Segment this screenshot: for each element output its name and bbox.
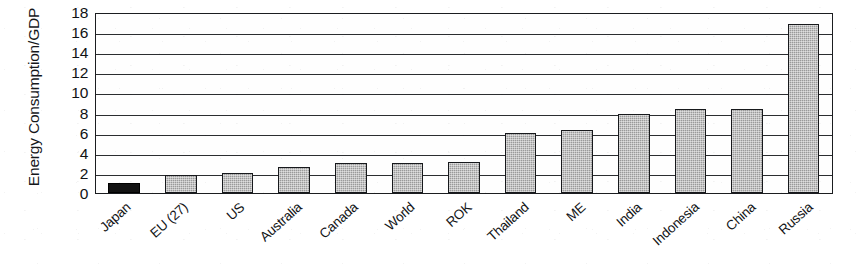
x-axis-tick-label: ROK xyxy=(443,200,474,230)
bar[interactable] xyxy=(561,130,593,193)
y-axis-tick: 12 xyxy=(52,66,88,82)
y-axis-tick: 16 xyxy=(52,25,88,41)
x-label-slot: Australia xyxy=(265,196,322,267)
x-label-slot: Thailand xyxy=(492,196,549,267)
x-axis-tick-label: US xyxy=(224,200,248,223)
y-axis-tick: 2 xyxy=(52,166,88,182)
x-label-slot: Canada xyxy=(322,196,379,267)
bar-slot xyxy=(436,14,493,193)
y-axis-tick: 6 xyxy=(52,126,88,142)
bar-slot xyxy=(322,14,379,193)
bar-slot xyxy=(775,14,832,193)
bar[interactable] xyxy=(165,175,197,193)
x-axis-tick-label: World xyxy=(382,200,417,234)
x-axis-tick-label: Russia xyxy=(775,199,815,237)
bars-layer xyxy=(96,14,832,193)
bar-slot xyxy=(266,14,323,193)
bar-slot xyxy=(492,14,549,193)
bar-slot xyxy=(662,14,719,193)
y-axis-title: Energy Consumption/GDP xyxy=(25,0,43,197)
bar-slot xyxy=(153,14,210,193)
bar[interactable] xyxy=(505,133,537,193)
bar[interactable] xyxy=(448,162,480,193)
bar[interactable] xyxy=(788,24,820,193)
bar-slot xyxy=(605,14,662,193)
bar[interactable] xyxy=(335,163,367,193)
y-axis-tick: 0 xyxy=(52,186,88,202)
y-axis-tick-labels: 181614121086420 xyxy=(52,6,88,202)
y-axis-tick: 8 xyxy=(52,106,88,122)
bar-slot xyxy=(96,14,153,193)
x-axis-tick-label: Canada xyxy=(317,199,361,241)
x-label-slot: Russia xyxy=(776,196,833,267)
x-axis-tick-label: ME xyxy=(563,200,588,224)
bar[interactable] xyxy=(618,114,650,193)
x-label-slot: Indonesia xyxy=(663,196,720,267)
bar[interactable] xyxy=(392,163,424,193)
bar[interactable] xyxy=(731,109,763,193)
bar[interactable] xyxy=(278,167,310,193)
plot-area xyxy=(95,13,833,194)
x-label-slot: World xyxy=(379,196,436,267)
y-axis-tick: 4 xyxy=(52,146,88,162)
bar[interactable] xyxy=(675,109,707,193)
x-label-slot: Japan xyxy=(95,196,152,267)
x-label-slot: EU (27) xyxy=(152,196,209,267)
x-axis-tick-label: India xyxy=(614,200,645,230)
y-axis-tick: 10 xyxy=(52,86,88,102)
bar-slot xyxy=(549,14,606,193)
x-label-slot: ME xyxy=(549,196,606,267)
x-axis-tick-labels: JapanEU (27)USAustraliaCanadaWorldROKTha… xyxy=(95,196,833,267)
x-axis-tick-label: Japan xyxy=(97,200,134,235)
bar-slot xyxy=(209,14,266,193)
y-axis-tick: 18 xyxy=(52,5,88,21)
x-label-slot: China xyxy=(719,196,776,267)
x-axis-tick-label: China xyxy=(723,200,759,234)
bar[interactable] xyxy=(222,173,254,193)
x-label-slot: US xyxy=(209,196,266,267)
y-axis-tick: 14 xyxy=(52,45,88,61)
bar-slot xyxy=(379,14,436,193)
x-label-slot: ROK xyxy=(436,196,493,267)
x-axis-tick-label: EU (27) xyxy=(147,199,191,240)
bar-slot xyxy=(719,14,776,193)
bar-chart-figure: Energy Consumption/GDP 181614121086420 J… xyxy=(0,0,863,267)
bar[interactable] xyxy=(108,183,140,193)
